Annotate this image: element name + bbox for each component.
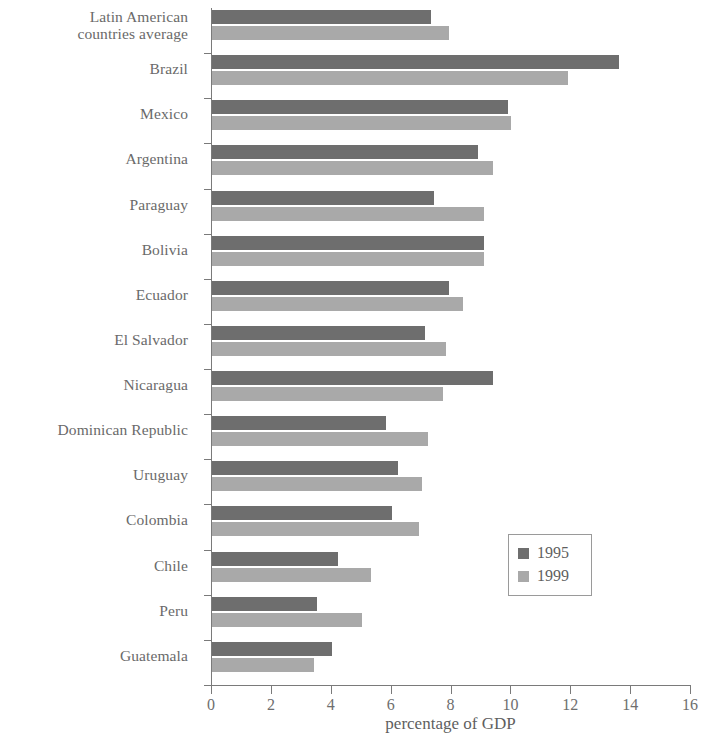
x-axis-tick-label: 8 (431, 696, 471, 714)
category-label: El Salvador (0, 331, 188, 348)
x-axis-tick-label: 4 (311, 696, 351, 714)
category-label: Latin American countries average (0, 8, 188, 42)
x-axis-tick-label: 14 (610, 696, 650, 714)
x-axis-tick-label: 12 (550, 696, 590, 714)
category-label: Colombia (0, 511, 188, 528)
bar-1999 (212, 297, 463, 311)
y-axis-tick (204, 640, 211, 641)
x-axis-tick-label: 0 (191, 696, 231, 714)
y-axis-tick (204, 550, 211, 551)
category-axis-labels: Latin American countries averageBrazilMe… (0, 8, 196, 685)
bar-1999 (212, 522, 419, 536)
y-axis-tick (204, 685, 211, 686)
bar-1995 (212, 145, 478, 159)
legend-label-1999: 1999 (537, 568, 569, 584)
bar-1999 (212, 26, 449, 40)
bar-1995 (212, 10, 431, 24)
bar-1999 (212, 252, 484, 266)
x-axis-tick (510, 686, 511, 694)
bar-1995 (212, 416, 386, 430)
bar-1999 (212, 116, 511, 130)
bar-1999 (212, 207, 484, 221)
bar-1995 (212, 236, 484, 250)
y-axis-tick (204, 369, 211, 370)
y-axis-tick (204, 414, 211, 415)
y-axis-tick (204, 459, 211, 460)
x-axis-tick (391, 686, 392, 694)
category-label: Brazil (0, 60, 188, 77)
category-label: Guatemala (0, 647, 188, 664)
legend-entry-1995: 1995 (518, 543, 569, 563)
bar-1995 (212, 597, 317, 611)
bar-1995 (212, 326, 425, 340)
category-label: Uruguay (0, 466, 188, 483)
bar-1999 (212, 658, 314, 672)
x-axis-tick (211, 686, 212, 694)
x-axis-tick (331, 686, 332, 694)
x-axis-tick (570, 686, 571, 694)
y-axis-tick (204, 324, 211, 325)
y-axis-tick (204, 504, 211, 505)
bar-1995 (212, 506, 392, 520)
y-axis-tick (204, 143, 211, 144)
x-axis-tick-label: 16 (670, 696, 702, 714)
bar-1999 (212, 387, 443, 401)
category-label: Argentina (0, 150, 188, 167)
legend-entry-1999: 1999 (518, 566, 569, 586)
y-axis-tick (204, 53, 211, 54)
bar-1995 (212, 55, 619, 69)
bar-1999 (212, 477, 422, 491)
bar-chart: Latin American countries averageBrazilMe… (0, 0, 702, 748)
x-axis-tick-label: 2 (251, 696, 291, 714)
bar-1999 (212, 432, 428, 446)
category-label: Bolivia (0, 241, 188, 258)
bar-1999 (212, 161, 493, 175)
category-label: Dominican Republic (0, 421, 188, 438)
plot-area: 0246810121416 (211, 8, 690, 685)
category-label: Chile (0, 557, 188, 574)
y-axis-tick (204, 98, 211, 99)
x-axis-tick-label: 10 (490, 696, 530, 714)
y-axis-tick (204, 595, 211, 596)
bar-1999 (212, 71, 568, 85)
bar-1995 (212, 552, 338, 566)
bar-1995 (212, 281, 449, 295)
y-axis-tick (204, 279, 211, 280)
x-axis-tick (690, 686, 691, 694)
x-axis-tick-label: 6 (371, 696, 411, 714)
bar-1995 (212, 461, 398, 475)
bar-1995 (212, 191, 434, 205)
y-axis-tick (204, 189, 211, 190)
x-axis-tick (271, 686, 272, 694)
y-axis-tick (204, 234, 211, 235)
x-axis-title: percentage of GDP (211, 714, 690, 734)
bar-1999 (212, 613, 362, 627)
x-axis-tick (451, 686, 452, 694)
bar-1995 (212, 642, 332, 656)
chart-legend: 1995 1999 (508, 534, 592, 596)
category-label: Peru (0, 602, 188, 619)
legend-swatch-icon-1999 (518, 571, 529, 582)
bar-1995 (212, 100, 508, 114)
category-label: Ecuador (0, 286, 188, 303)
legend-swatch-icon-1995 (518, 548, 529, 559)
category-label: Paraguay (0, 196, 188, 213)
x-axis-tick (630, 686, 631, 694)
bar-1999 (212, 568, 371, 582)
bar-1995 (212, 371, 493, 385)
category-label: Nicaragua (0, 376, 188, 393)
category-label: Mexico (0, 105, 188, 122)
legend-label-1995: 1995 (537, 545, 569, 561)
bar-1999 (212, 342, 446, 356)
